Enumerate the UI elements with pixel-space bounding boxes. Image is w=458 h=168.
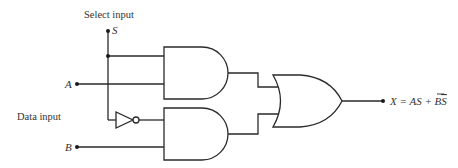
and-to-or-wires [228,73,279,134]
and-gate-top [164,47,228,99]
output-equation-s-bar: S [441,95,447,107]
select-wire [108,31,164,120]
not-gate [116,112,164,128]
s-label: S [112,24,118,36]
junction-dot [106,54,110,58]
output-equation-main: X = AS + B [389,95,442,107]
b-label: B [65,141,72,153]
mux-circuit-diagram: Select input Data input S A B X = AS + B… [0,0,458,168]
and-gate-bottom [164,108,228,160]
a-terminal [75,82,79,86]
b-terminal [75,145,79,149]
x-terminal [381,99,385,103]
s-terminal [106,29,110,33]
a-label: A [64,78,72,90]
select-input-label: Select input [84,9,134,20]
or-gate [273,75,342,127]
output-equation: X = AS + BS [389,95,447,107]
data-input-label: Data input [17,111,61,122]
